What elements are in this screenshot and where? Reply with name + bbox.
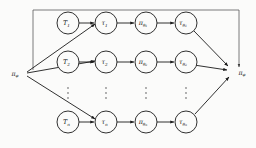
node-task-n-sub: n [67, 122, 70, 127]
node-trajectory-n-sub: n [105, 122, 108, 127]
node-trajectory-n[interactable]: τn [95, 111, 117, 133]
node-source-policy[interactable]: πφ [11, 70, 19, 78]
node-trajectory-1[interactable]: τ1 [95, 12, 117, 34]
node-task-n[interactable]: Tn [57, 111, 79, 133]
edge-adapted-trajectory-2-to-target [194, 65, 227, 70]
node-adapted-trajectory-1[interactable]: τθ1 [175, 12, 197, 34]
node-adapted-trajectory-n-sub2: n [185, 123, 187, 127]
svg-text:πφ: πφ [238, 69, 246, 77]
figure-canvas: T1 τ1 πθ1 τθ1 T2 [0, 0, 256, 148]
node-trajectory-2-sub: 2 [104, 62, 108, 67]
ellipsis-trajectory-column [105, 87, 106, 98]
node-adapted-trajectory-n[interactable]: τθn [175, 111, 197, 133]
node-trajectory-2[interactable]: τ2 [95, 51, 117, 73]
edge-source-to-trajectory-n [27, 76, 95, 119]
ellipsis-adapted-trajectory-column [185, 87, 186, 98]
svg-text:πφ: πφ [11, 70, 19, 78]
diagram-svg: T1 τ1 πθ1 τθ1 T2 [0, 0, 256, 148]
node-adapted-trajectory-2[interactable]: τθ2 [175, 51, 197, 73]
node-adapted-policy-n[interactable]: πθn [135, 111, 157, 133]
node-adapted-policy-2[interactable]: πθ2 [135, 51, 157, 73]
node-adapted-policy-1[interactable]: πθ1 [135, 12, 157, 34]
node-source-policy-sub: φ [16, 73, 19, 78]
node-target-policy-sub: φ [243, 72, 246, 77]
node-task-2-sub: 2 [66, 62, 70, 67]
ellipsis-adapted-policy-column [145, 87, 146, 98]
node-task-1-sub: 1 [67, 23, 70, 28]
node-adapted-trajectory-1-sub2: 1 [185, 24, 187, 28]
node-trajectory-1-sub: 1 [105, 23, 108, 28]
node-task-2[interactable]: T2 [57, 51, 79, 73]
source-fanout-group [27, 24, 95, 119]
node-target-policy[interactable]: πφ [238, 69, 246, 77]
node-adapted-policy-1-sub2: 1 [145, 24, 147, 28]
node-adapted-policy-2-sub2: 2 [144, 63, 147, 67]
node-task-1[interactable]: T1 [57, 12, 79, 34]
node-adapted-policy-n-sub2: n [145, 123, 147, 127]
edge-adapted-trajectory-1-to-target [194, 31, 228, 66]
node-adapted-trajectory-2-sub2: 2 [184, 63, 187, 67]
ellipsis-task-column [67, 87, 68, 98]
edge-adapted-trajectory-n-to-target [195, 77, 229, 114]
